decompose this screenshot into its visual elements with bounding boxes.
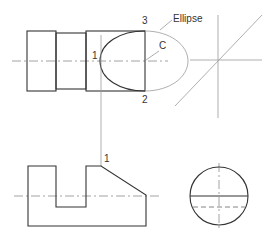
point-c-leader-line [146,51,159,60]
label-point-2: 2 [142,94,148,105]
label-point-3: 3 [142,15,148,26]
front-view [14,166,162,226]
technical-drawing: 1 3 2 C Ellipse 1 [0,0,272,238]
label-ellipse: Ellipse [173,13,203,24]
label-point-1-bottom: 1 [104,153,110,164]
ellipse-leader-line [160,20,172,30]
side-view [190,163,248,229]
label-point-c: C [159,40,166,51]
label-point-1-top: 1 [92,50,98,61]
mitre-construction [175,15,262,118]
